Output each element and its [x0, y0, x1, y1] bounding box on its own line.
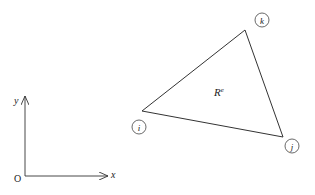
y-axis-label: y [13, 95, 19, 106]
node-k: k [255, 13, 269, 27]
node-label-k: k [260, 16, 265, 26]
element-label: Re [213, 86, 224, 98]
coordinate-axes: y x O [13, 95, 116, 184]
triangle-element-diagram: Re k i j y x O [0, 0, 315, 195]
node-i: i [132, 120, 146, 134]
node-label-j: j [290, 142, 294, 152]
diagram-svg: Re k i j y x O [0, 0, 315, 195]
origin-label: O [14, 173, 21, 184]
node-j: j [285, 139, 299, 153]
x-axis-label: x [110, 169, 116, 180]
node-label-i: i [138, 123, 141, 133]
triangle-element [142, 30, 283, 137]
